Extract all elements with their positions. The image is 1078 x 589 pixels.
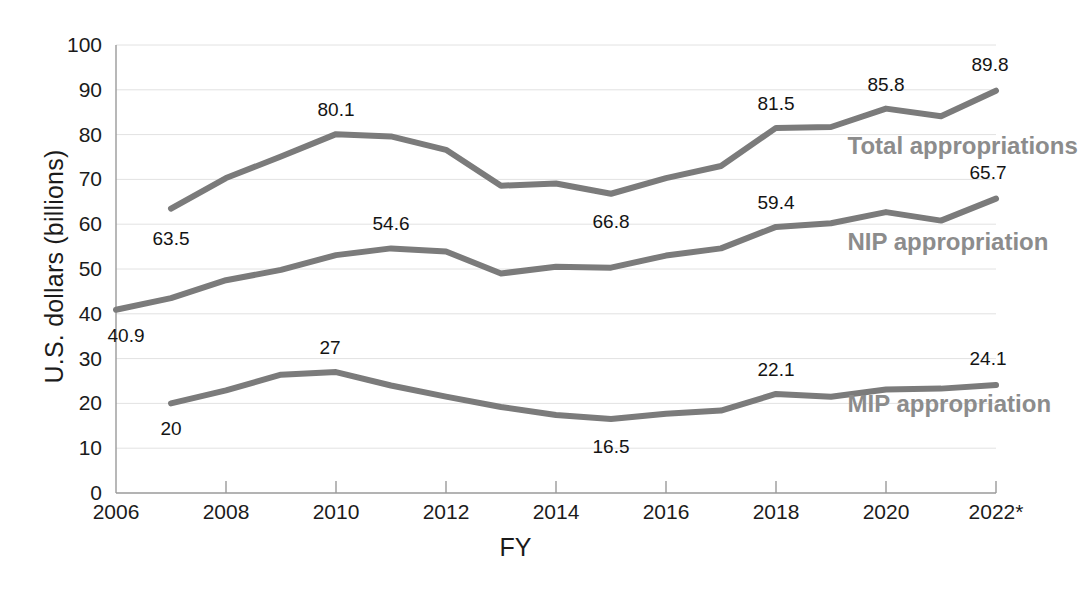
data-label-80.1: 80.1 [318,99,355,121]
series-label-nip-appropriation: NIP appropriation [848,228,1049,256]
plot-svg [116,45,996,493]
data-label-66.8: 66.8 [593,211,630,233]
data-label-27: 27 [319,337,340,359]
x-tick-2012: 2012 [423,500,470,524]
x-tick-marks [226,481,996,493]
x-tick-2010: 2010 [313,500,360,524]
data-label-59.4: 59.4 [758,192,795,214]
series-label-mip-appropriation: MIP appropriation [848,390,1052,418]
y-tick-90: 90 [42,78,102,102]
data-label-22.1: 22.1 [758,359,795,381]
data-label-40.9: 40.9 [108,325,145,347]
x-tick-2008: 2008 [203,500,250,524]
data-label-20: 20 [160,418,181,440]
y-tick-60: 60 [42,212,102,236]
x-tick-2014: 2014 [533,500,580,524]
data-label-85.8: 85.8 [868,74,905,96]
series-label-total-appropriations: Total appropriations [848,132,1078,160]
y-tick-70: 70 [42,167,102,191]
y-tick-30: 30 [42,347,102,371]
data-label-81.5: 81.5 [758,93,795,115]
x-axis-title: FY [0,533,1031,562]
y-tick-20: 20 [42,391,102,415]
data-label-16.5: 16.5 [593,436,630,458]
data-label-63.5: 63.5 [153,228,190,250]
x-tick-2006: 2006 [93,500,140,524]
data-label-89.8: 89.8 [972,54,1009,76]
y-tick-40: 40 [42,302,102,326]
y-tick-100: 100 [42,33,102,57]
plot-area [116,45,996,493]
x-tick-2022: 2022* [969,500,1024,524]
data-label-65.7: 65.7 [970,162,1007,184]
x-tick-2020: 2020 [863,500,910,524]
y-tick-80: 80 [42,123,102,147]
y-tick-50: 50 [42,257,102,281]
data-label-24.1: 24.1 [970,348,1007,370]
data-label-54.6: 54.6 [373,213,410,235]
x-tick-2018: 2018 [753,500,800,524]
y-tick-10: 10 [42,436,102,460]
x-tick-2016: 2016 [643,500,690,524]
